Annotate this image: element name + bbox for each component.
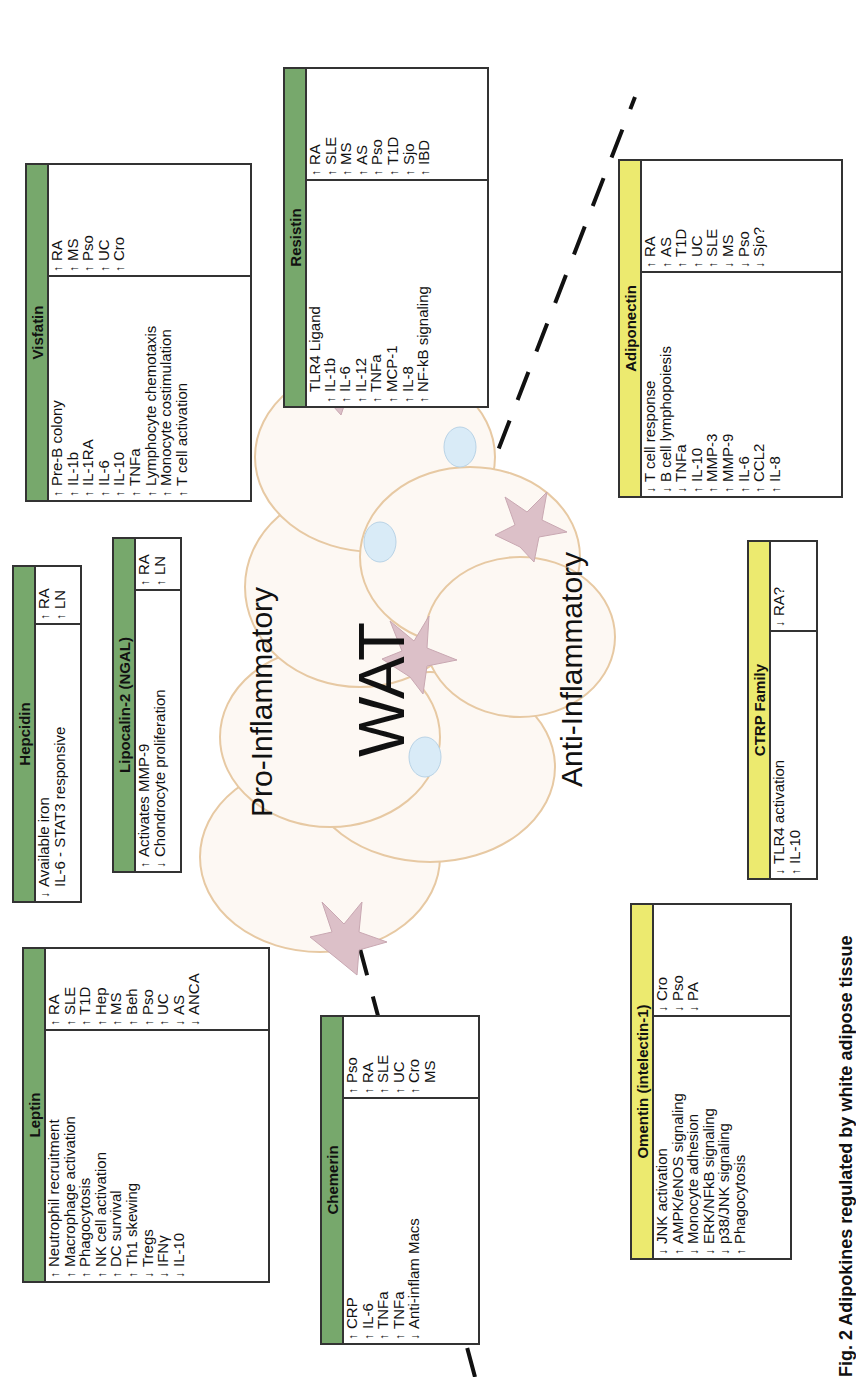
- item-label: Available iron: [35, 797, 52, 887]
- arrow-up-icon: ↑: [362, 1083, 377, 1094]
- arrow-up-icon: ↑: [722, 482, 737, 493]
- item-label: IL-10: [170, 1233, 187, 1267]
- item-label: IL-6: [359, 1303, 376, 1329]
- arrow-up-icon: ↑: [734, 1244, 749, 1255]
- list-item: ↓ANCA: [187, 952, 203, 1026]
- item-label: RA: [359, 1062, 376, 1083]
- item-label: Pso: [79, 235, 96, 261]
- arrow-up-icon: ↑: [138, 857, 153, 868]
- arrow-up-icon: ↑: [98, 261, 113, 272]
- item-label: IL-6: [95, 460, 112, 486]
- visfatin-title: Visfatin: [27, 165, 49, 500]
- list-item: ↑LN: [153, 542, 169, 586]
- arrow-down-icon: ↓: [687, 1244, 702, 1255]
- list-item: ↓Sjo?: [752, 164, 768, 268]
- item-label: NF-kB signaling: [414, 286, 431, 392]
- item-label: IL-1b: [64, 452, 81, 486]
- hepcidin-box: Hepcidin ↓Available ironIL-6 - STAT3 res…: [12, 565, 82, 903]
- item-label: TNFa: [367, 355, 384, 393]
- arrow-up-icon: ↑: [67, 486, 82, 497]
- arrow-down-icon: ↓: [188, 1015, 203, 1026]
- arrow-down-icon: ↓: [38, 887, 53, 898]
- item-label: TNFa: [126, 449, 143, 487]
- chemerin-box: Chemerin ↑CRP↑IL-6↑TNFa↑TNFa↓Anti-inflam…: [320, 1015, 480, 1345]
- item-label: MS: [719, 235, 736, 258]
- arrow-up-icon: ↑: [95, 1267, 110, 1278]
- arrow-down-icon: ↓: [722, 257, 737, 268]
- arrow-down-icon: ↓: [753, 257, 768, 268]
- arrow-up-icon: ↑: [393, 1329, 408, 1340]
- item-label: IL-12: [352, 358, 369, 392]
- list-item: IL-6 - STAT3 responsive: [53, 628, 68, 898]
- arrow-up-icon: ↑: [706, 257, 721, 268]
- arrow-up-icon: ↑: [387, 165, 402, 176]
- arrow-up-icon: ↑: [138, 575, 153, 586]
- item-label: AS: [353, 145, 370, 165]
- lipocalin-title: Lipocalin-2 (NGAL): [114, 539, 136, 871]
- item-label: SLE: [703, 229, 720, 257]
- list-item: ↑IBD: [417, 72, 433, 176]
- arrow-down-icon: ↓: [773, 864, 788, 875]
- arrow-up-icon: ↑: [126, 1267, 141, 1278]
- arrow-up-icon: ↑: [309, 165, 324, 176]
- list-item: ↑LN: [53, 570, 69, 620]
- item-label: Macrophage activation: [61, 1116, 78, 1267]
- chemerin-title: Chemerin: [322, 1017, 344, 1343]
- arrow-up-icon: ↑: [769, 482, 784, 493]
- item-label: Monocyte adhesion: [684, 1114, 701, 1244]
- item-label: TNFa: [390, 1292, 407, 1330]
- item-label: UC: [390, 1061, 407, 1083]
- arrow-up-icon: ↑: [48, 1267, 63, 1278]
- ctrp-effects: ↓TLR4 activation↑IL-10: [771, 632, 816, 878]
- arrow-up-icon: ↑: [110, 1267, 125, 1278]
- item-label: UC: [154, 993, 171, 1015]
- arrow-up-icon: ↑: [54, 609, 69, 620]
- arrow-up-icon: ↑: [346, 1329, 361, 1340]
- resistin-box: Resistin TLR4 Ligand↑IL-1b↑IL-6↑IL-12↑TN…: [283, 67, 489, 408]
- item-label: MMP-9: [719, 434, 736, 482]
- item-label: MMP-3: [703, 434, 720, 482]
- arrow-up-icon: ↑: [154, 575, 169, 586]
- item-label: AMPK/eNOS signaling: [669, 1093, 686, 1244]
- item-label: MCP-1: [383, 345, 400, 392]
- item-label: CCL2: [750, 444, 767, 482]
- list-item: ↑T cell activation: [175, 280, 191, 497]
- arrow-up-icon: ↑: [660, 257, 675, 268]
- list-item: ↑Cro: [112, 168, 128, 272]
- arrow-up-icon: ↑: [753, 482, 768, 493]
- item-label: Pso: [735, 231, 752, 257]
- hepcidin-effects: ↓Available ironIL-6 - STAT3 responsive: [36, 625, 80, 901]
- item-label: RA: [48, 240, 65, 261]
- lipocalin-effects: ↑Activates MMP-9↓Chondrocyte proliferati…: [136, 591, 180, 871]
- arrow-up-icon: ↑: [675, 257, 690, 268]
- omentin-diseases: ↓Cro↓Pso↓PA: [654, 905, 790, 1017]
- adiponectin-diseases: ↑RA↑AS↑T1D↑UC↑SLE↓MS↓Pso↓Sjo?: [642, 161, 841, 273]
- arrow-up-icon: ↑: [408, 1083, 423, 1094]
- leptin-diseases: ↑RA↑SLE↑T1D↑Hep↑MS↑Beh↑Pso↑UC↓AS↓ANCA: [46, 949, 268, 1031]
- item-label: IL-1b: [321, 358, 338, 392]
- item-label: T cell response: [641, 381, 658, 482]
- arrow-up-icon: ↑: [64, 1267, 79, 1278]
- arrow-up-icon: ↑: [403, 165, 418, 176]
- item-label: T1D: [384, 137, 401, 165]
- list-item: ↑NF-kB signaling: [416, 184, 432, 403]
- item-label: SLE: [374, 1055, 391, 1083]
- resistin-title: Resistin: [285, 69, 307, 406]
- arrow-up-icon: ↑: [418, 165, 433, 176]
- arrow-down-icon: ↓: [656, 1001, 671, 1012]
- arrow-up-icon: ↑: [371, 165, 386, 176]
- arrow-up-icon: ↑: [789, 864, 804, 875]
- arrow-up-icon: ↑: [110, 1015, 125, 1026]
- arrow-down-icon: ↓: [157, 1267, 172, 1278]
- lipocalin-diseases: ↑RA↑LN: [136, 539, 180, 591]
- arrow-down-icon: ↓: [408, 1329, 423, 1340]
- arrow-up-icon: ↑: [340, 165, 355, 176]
- omentin-box: Omentin (intelectin-1) ↓JNK activation↑A…: [630, 903, 792, 1260]
- item-label: Pso: [343, 1057, 360, 1083]
- hepcidin-diseases: ↑RA↑LN: [36, 567, 80, 625]
- item-label: IBD: [415, 140, 432, 165]
- visfatin-diseases: ↑RA↑MS↑Pso↑UC↑Cro: [49, 165, 250, 277]
- arrow-down-icon: ↓: [173, 1267, 188, 1278]
- list-item: ↑IL-10: [788, 635, 804, 875]
- anti-inflammatory-label: Anti-Inflammatory: [555, 552, 589, 787]
